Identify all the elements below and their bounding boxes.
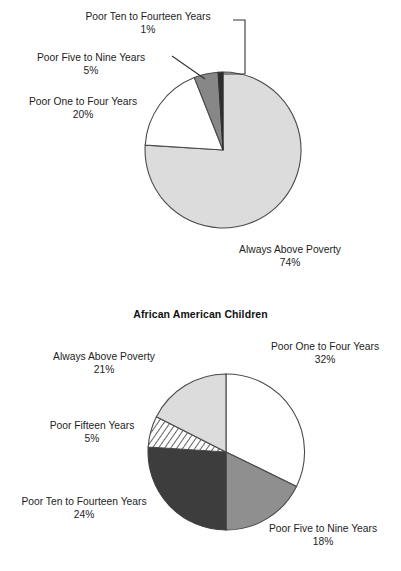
top-label-always-above-poverty: Always Above Poverty 74% bbox=[210, 243, 370, 269]
bottom-label-poor-five-to-nine-percent: 18% bbox=[250, 535, 396, 548]
bottom-label-poor-fifteen: Poor Fifteen Years 5% bbox=[28, 419, 156, 445]
bottom-label-poor-one-to-four: Poor One to Four Years 32% bbox=[252, 340, 398, 366]
top-pie-chart: Poor Ten to Fourteen Years 1% Poor Five … bbox=[0, 0, 401, 290]
bottom-label-always-above-poverty-percent: 21% bbox=[32, 363, 176, 376]
top-label-always-above-poverty-percent: 74% bbox=[210, 256, 370, 269]
bottom-label-poor-ten-to-fourteen-percent: 24% bbox=[2, 508, 166, 521]
bottom-label-poor-five-to-nine-name: Poor Five to Nine Years bbox=[250, 522, 396, 535]
bottom-label-poor-one-to-four-name: Poor One to Four Years bbox=[252, 340, 398, 353]
bottom-label-poor-fifteen-percent: 5% bbox=[28, 432, 156, 445]
top-label-poor-ten-to-fourteen-name: Poor Ten to Fourteen Years bbox=[63, 10, 233, 23]
bottom-pie-chart: African American Children Poor One to Fo bbox=[0, 290, 401, 571]
top-leader-line-five-to-nine bbox=[172, 56, 205, 79]
top-label-poor-ten-to-fourteen-percent: 1% bbox=[63, 23, 233, 36]
top-label-poor-ten-to-fourteen: Poor Ten to Fourteen Years 1% bbox=[63, 10, 233, 36]
bottom-label-poor-one-to-four-percent: 32% bbox=[252, 353, 398, 366]
bottom-label-poor-ten-to-fourteen-name: Poor Ten to Fourteen Years bbox=[2, 495, 166, 508]
top-label-poor-one-to-four-percent: 20% bbox=[8, 108, 158, 121]
bottom-label-always-above-poverty-name: Always Above Poverty bbox=[32, 350, 176, 363]
top-label-poor-five-to-nine-percent: 5% bbox=[12, 64, 170, 77]
bottom-label-poor-fifteen-name: Poor Fifteen Years bbox=[28, 419, 156, 432]
poverty-pie-figure: Poor Ten to Fourteen Years 1% Poor Five … bbox=[0, 0, 401, 571]
top-label-always-above-poverty-name: Always Above Poverty bbox=[210, 243, 370, 256]
top-label-poor-five-to-nine-name: Poor Five to Nine Years bbox=[12, 51, 170, 64]
top-label-poor-one-to-four: Poor One to Four Years 20% bbox=[8, 95, 158, 121]
bottom-label-always-above-poverty: Always Above Poverty 21% bbox=[32, 350, 176, 376]
top-label-poor-five-to-nine: Poor Five to Nine Years 5% bbox=[12, 51, 170, 77]
bottom-label-poor-ten-to-fourteen: Poor Ten to Fourteen Years 24% bbox=[2, 495, 166, 521]
bottom-label-poor-five-to-nine: Poor Five to Nine Years 18% bbox=[250, 522, 396, 548]
top-label-poor-one-to-four-name: Poor One to Four Years bbox=[8, 95, 158, 108]
